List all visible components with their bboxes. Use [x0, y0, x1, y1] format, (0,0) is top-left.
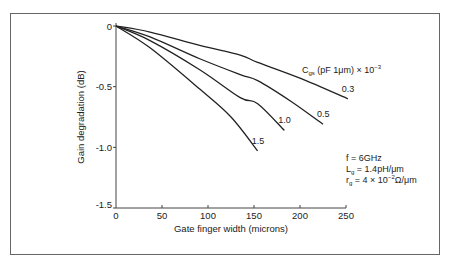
- x-tick-label: 250: [338, 210, 354, 221]
- series-label-0-3: 0.3: [342, 84, 355, 94]
- x-tick-label: 50: [157, 210, 168, 221]
- annotation-resistance: rg = 4 × 10−2Ω/μm: [346, 174, 417, 186]
- x-axis-title: Gate finger width (microns): [174, 223, 288, 234]
- x-tick-label: 100: [200, 210, 216, 221]
- series-label-0-5: 0.5: [317, 109, 330, 119]
- chart: 0-0.5-1.0-1.5050100150200250 0.30.51.01.…: [0, 0, 450, 267]
- annotation-inductance: Lg = 1.4pH/μm: [346, 164, 404, 175]
- legend-title: Cgs (pF 1μm) × 10−3: [302, 64, 382, 76]
- legend-title-sup: −3: [374, 64, 382, 70]
- annotation-resistance-tail: Ω/μm: [395, 175, 417, 185]
- series-line-1-5: [116, 26, 258, 151]
- y-tick-label: -0.5: [96, 81, 112, 92]
- legend-title-rest: (pF 1μm) × 10: [315, 65, 374, 75]
- x-tick-label: 0: [113, 210, 118, 221]
- x-tick-label: 150: [246, 210, 262, 221]
- annotation-frequency: f = 6GHz: [346, 153, 382, 163]
- y-tick-label: 0: [107, 21, 112, 32]
- annotation-resistance-rest: = 4 × 10: [352, 175, 388, 185]
- y-axis-title: Gain degradation (dB): [75, 70, 86, 163]
- annotation-inductance-rest: = 1.4pH/μm: [354, 164, 403, 174]
- series-label-1-0: 1.0: [278, 115, 291, 125]
- series-label-1-5: 1.5: [252, 136, 265, 146]
- x-tick-label: 200: [292, 210, 308, 221]
- y-tick-label: -1.0: [96, 142, 112, 153]
- y-tick-label: -1.5: [96, 199, 112, 210]
